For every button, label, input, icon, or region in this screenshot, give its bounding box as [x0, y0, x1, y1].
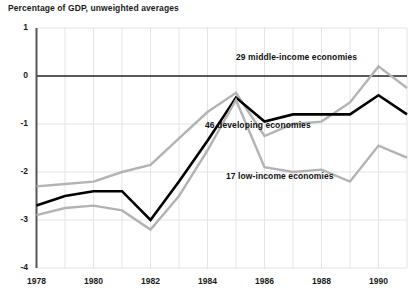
- y-tick-label: -1: [6, 118, 28, 128]
- series-line-2: [37, 95, 408, 220]
- x-tick-label: 1990: [359, 276, 399, 286]
- series-lines-group: [37, 66, 408, 229]
- chart-container: Percentage of GDP, unweighted averages 1…: [0, 0, 413, 298]
- x-tick-label: 1982: [131, 276, 171, 286]
- y-tick-label: -2: [6, 166, 28, 176]
- y-tick-label: 1: [6, 22, 28, 32]
- x-tick-label: 1984: [188, 276, 228, 286]
- x-tick-label: 1988: [302, 276, 342, 286]
- chart-plot-area: [0, 0, 413, 298]
- gridlines-group: [37, 28, 408, 268]
- y-tick-label: 0: [6, 70, 28, 80]
- y-tick-label: -3: [6, 214, 28, 224]
- x-tick-label: 1978: [17, 276, 57, 286]
- series-annotation-1: 29 middle-income economies: [236, 52, 357, 62]
- x-tick-label: 1986: [245, 276, 285, 286]
- x-tick-label: 1980: [74, 276, 114, 286]
- series-annotation-2: 46 developing economies: [205, 120, 311, 130]
- series-annotation-3: 17 low-income economies: [226, 171, 334, 181]
- y-tick-label: -4: [6, 262, 28, 272]
